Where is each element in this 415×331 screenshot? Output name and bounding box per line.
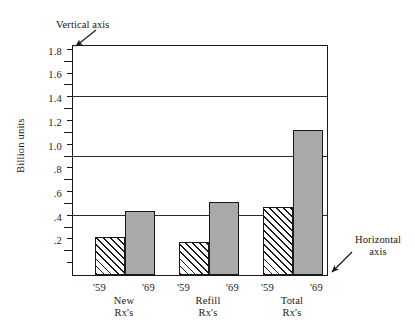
gridline — [73, 96, 327, 97]
annotation-horizontal-axis: Horizontal axis — [345, 234, 411, 258]
x-year-label: '69 — [142, 282, 155, 295]
x-category-label-line1: Total — [252, 295, 332, 308]
y-tick-major — [64, 250, 73, 251]
x-year-label: '69 — [226, 282, 239, 295]
x-category-total-rx-s: '59'69TotalRx's — [252, 282, 332, 320]
annotation-horizontal-axis-line1: Horizontal — [345, 234, 411, 246]
bar-new-rx-s-69 — [125, 211, 155, 275]
y-tick-label: .2 — [54, 236, 62, 246]
y-tick-label: 1.4 — [48, 94, 62, 104]
gridline — [73, 156, 327, 157]
y-tick-label: .8 — [54, 165, 62, 175]
y-tick-minor — [67, 96, 73, 97]
bar-new-rx-s-59 — [95, 237, 125, 275]
y-tick-major — [64, 61, 73, 62]
x-year-label: '59 — [93, 282, 106, 295]
bar-total-rx-s-59 — [263, 207, 293, 275]
x-category-label-line2: Rx's — [84, 307, 164, 320]
y-tick-label: 1.8 — [48, 47, 62, 57]
y-tick-major — [64, 203, 73, 204]
y-tick-minor — [67, 120, 73, 121]
y-tick-minor — [67, 73, 73, 74]
bar-total-rx-s-69 — [293, 130, 323, 275]
y-tick-minor — [67, 262, 73, 263]
y-tick-minor — [67, 215, 73, 216]
arrow-vertical-axis — [76, 30, 96, 46]
x-category-label-line2: Rx's — [252, 307, 332, 320]
y-tick-major — [64, 132, 73, 133]
y-tick-label: 1.0 — [48, 142, 62, 152]
bar-refill-rx-s-59 — [179, 242, 209, 275]
x-category-new-rx-s: '59'69NewRx's — [84, 282, 164, 320]
y-tick-minor — [67, 167, 73, 168]
annotation-horizontal-axis-line2: axis — [345, 246, 411, 258]
y-tick-major — [64, 108, 73, 109]
y-axis-title: Billion units — [15, 101, 26, 191]
y-tick-major — [64, 179, 73, 180]
y-tick-label: .6 — [54, 189, 62, 199]
y-tick-major — [64, 156, 73, 157]
x-year-labels: '59'69 — [168, 282, 248, 295]
x-year-labels: '59'69 — [252, 282, 332, 295]
bar-chart-figure: Vertical axis Horizontal axis Billion un… — [0, 0, 415, 331]
x-year-label: '59 — [177, 282, 190, 295]
y-tick-label: 1.6 — [48, 70, 62, 80]
annotation-vertical-axis: Vertical axis — [56, 19, 110, 31]
y-tick-major — [64, 84, 73, 85]
x-category-label-line2: Rx's — [168, 307, 248, 320]
x-category-label-line1: Refill — [168, 295, 248, 308]
y-tick-minor — [67, 191, 73, 192]
x-category-refill-rx-s: '59'69RefillRx's — [168, 282, 248, 320]
y-tick-minor — [67, 144, 73, 145]
plot-area: 1.81.61.41.21.0.8.6.4.2 — [72, 45, 328, 276]
y-tick-minor — [67, 238, 73, 239]
x-year-labels: '59'69 — [84, 282, 164, 295]
bar-refill-rx-s-69 — [209, 202, 239, 275]
x-year-label: '69 — [310, 282, 323, 295]
y-tick-major — [64, 227, 73, 228]
y-tick-label: .4 — [54, 213, 62, 223]
y-tick-minor — [67, 49, 73, 50]
x-category-label-line1: New — [84, 295, 164, 308]
x-year-label: '59 — [261, 282, 274, 295]
y-tick-label: 1.2 — [48, 118, 62, 128]
